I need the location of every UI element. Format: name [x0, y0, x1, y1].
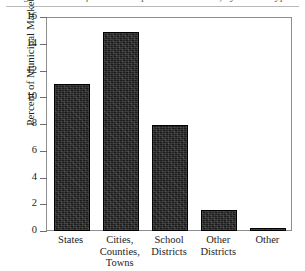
y-tick-4 — [40, 178, 47, 179]
y-tick-label-6: 6 — [0, 145, 37, 155]
y-tick-label-14: 14 — [0, 38, 37, 48]
x-label-line: Other — [243, 234, 292, 246]
bar-2 — [103, 32, 139, 231]
y-tick-label-4: 4 — [0, 172, 37, 182]
y-tick-label-16: 16 — [0, 11, 37, 21]
y-tick-12 — [40, 71, 47, 72]
y-tick-label-0: 0 — [0, 225, 37, 235]
y-tick-16 — [40, 17, 47, 18]
x-label-4: OtherDistricts — [194, 234, 243, 257]
x-label-line: Districts — [194, 246, 243, 258]
y-tick-6 — [40, 151, 47, 152]
y-tick-label-12: 12 — [0, 65, 37, 75]
bar-5 — [250, 228, 286, 231]
x-label-5: Other — [243, 234, 292, 246]
y-tick-8 — [40, 124, 47, 125]
bar-4 — [201, 210, 237, 231]
y-axis-title: Percent of Municipal Market — [24, 0, 36, 162]
x-label-line: Other — [194, 234, 243, 246]
y-tick-label-2: 2 — [0, 198, 37, 208]
x-label-2: Cities,Counties,Towns — [95, 234, 144, 269]
x-label-3: SchoolDistricts — [144, 234, 193, 257]
x-label-1: States — [46, 234, 95, 246]
x-label-line: Cities, — [95, 234, 144, 246]
bars-container — [47, 18, 291, 231]
y-tick-0 — [40, 231, 47, 232]
x-label-line: Counties, — [95, 246, 144, 258]
bar-1 — [54, 84, 90, 231]
x-label-line: School — [144, 234, 193, 246]
title-divider-rule — [6, 6, 299, 7]
y-tick-14 — [40, 44, 47, 45]
x-label-line: Towns — [95, 257, 144, 269]
bar-chart-figure: Figure: Share of the Municipal Bond Mark… — [0, 0, 305, 271]
chart-title: Figure: Share of the Municipal Bond Mark… — [0, 0, 305, 2]
x-label-line: Districts — [144, 246, 193, 258]
bar-3 — [152, 125, 188, 231]
y-tick-10 — [40, 97, 47, 98]
x-label-line: States — [46, 234, 95, 246]
y-tick-label-10: 10 — [0, 91, 37, 101]
y-tick-2 — [40, 204, 47, 205]
x-axis-tick-labels: StatesCities,Counties,TownsSchoolDistric… — [46, 234, 292, 271]
y-tick-label-8: 8 — [0, 118, 37, 128]
